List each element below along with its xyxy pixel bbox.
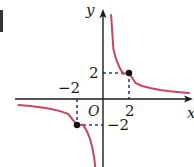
tick-label-x-neg: −2 (58, 81, 80, 96)
x-axis-label: x (187, 106, 194, 121)
tick-label-y-pos: 2 (89, 66, 99, 81)
hyperbola-graph (0, 0, 194, 167)
y-axis-label: y (86, 3, 94, 18)
tick-label-y-neg: −2 (107, 118, 129, 133)
origin-label: O (88, 104, 99, 119)
curve-branch-quadrant-1 (111, 15, 189, 93)
curve (19, 15, 190, 167)
axes (15, 9, 193, 167)
curve-branch-quadrant-3 (19, 105, 96, 167)
point-neg2-neg2 (74, 122, 80, 128)
point-2-2 (126, 70, 132, 76)
